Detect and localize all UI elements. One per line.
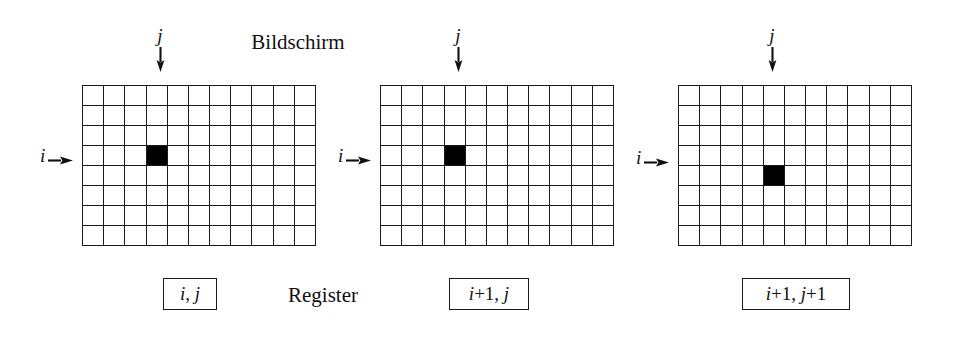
- grid-cell[interactable]: [764, 186, 785, 206]
- grid-cell[interactable]: [466, 226, 487, 246]
- grid-cell[interactable]: [445, 166, 466, 186]
- grid-cell[interactable]: [252, 186, 273, 206]
- grid-cell[interactable]: [764, 86, 785, 106]
- grid-cell[interactable]: [423, 166, 444, 186]
- grid-cell[interactable]: [445, 126, 466, 146]
- grid-cell[interactable]: [743, 226, 764, 246]
- grid-cell[interactable]: [764, 226, 785, 246]
- grid-cell[interactable]: [466, 146, 487, 166]
- grid-cell[interactable]: [572, 146, 593, 166]
- grid-cell[interactable]: [785, 86, 806, 106]
- grid-cell[interactable]: [402, 186, 423, 206]
- grid-cell[interactable]: [764, 126, 785, 146]
- grid-cell[interactable]: [700, 166, 721, 186]
- grid-cell[interactable]: [83, 106, 104, 126]
- grid-cell[interactable]: [848, 166, 869, 186]
- grid-cell[interactable]: [83, 146, 104, 166]
- grid-cell[interactable]: [827, 226, 848, 246]
- grid-cell[interactable]: [274, 186, 295, 206]
- grid-cell[interactable]: [721, 86, 742, 106]
- grid-cell[interactable]: [721, 226, 742, 246]
- grid-cell[interactable]: [848, 86, 869, 106]
- grid-cell[interactable]: [572, 86, 593, 106]
- grid-cell[interactable]: [721, 186, 742, 206]
- grid-cell[interactable]: [125, 206, 146, 226]
- grid-cell[interactable]: [381, 206, 402, 226]
- grid-cell[interactable]: [827, 126, 848, 146]
- grid-cell[interactable]: [147, 86, 168, 106]
- grid-cell[interactable]: [550, 166, 571, 186]
- grid-cell[interactable]: [572, 166, 593, 186]
- grid-cell[interactable]: [508, 166, 529, 186]
- grid-cell[interactable]: [189, 206, 210, 226]
- grid-cell[interactable]: [210, 146, 231, 166]
- grid-cell[interactable]: [806, 126, 827, 146]
- grid-cell[interactable]: [274, 226, 295, 246]
- grid-cell[interactable]: [423, 226, 444, 246]
- grid-cell[interactable]: [550, 106, 571, 126]
- grid-cell[interactable]: [402, 106, 423, 126]
- grid-cell[interactable]: [104, 166, 125, 186]
- grid-cell[interactable]: [785, 226, 806, 246]
- grid-cell[interactable]: [147, 126, 168, 146]
- grid-cell[interactable]: [679, 186, 700, 206]
- grid-cell[interactable]: [189, 86, 210, 106]
- grid-cell[interactable]: [806, 146, 827, 166]
- grid-cell[interactable]: [274, 86, 295, 106]
- grid-cell[interactable]: [231, 186, 252, 206]
- grid-cell[interactable]: [743, 86, 764, 106]
- grid-cell[interactable]: [147, 226, 168, 246]
- grid-cell[interactable]: [402, 226, 423, 246]
- grid-cell[interactable]: [445, 106, 466, 126]
- grid-cell[interactable]: [423, 86, 444, 106]
- grid-cell[interactable]: [189, 226, 210, 246]
- grid-cell[interactable]: [848, 146, 869, 166]
- grid-cell[interactable]: [827, 86, 848, 106]
- grid-cell[interactable]: [231, 86, 252, 106]
- grid-cell[interactable]: [402, 86, 423, 106]
- grid-cell[interactable]: [381, 126, 402, 146]
- grid-cell[interactable]: [104, 186, 125, 206]
- grid-cell[interactable]: [445, 226, 466, 246]
- grid-cell[interactable]: [104, 106, 125, 126]
- grid-cell[interactable]: [231, 226, 252, 246]
- grid-cell[interactable]: [83, 226, 104, 246]
- grid-cell[interactable]: [104, 126, 125, 146]
- grid-cell[interactable]: [83, 186, 104, 206]
- grid-cell[interactable]: [508, 106, 529, 126]
- grid-cell[interactable]: [168, 226, 189, 246]
- grid-cell[interactable]: [125, 146, 146, 166]
- grid-cell[interactable]: [189, 166, 210, 186]
- grid-cell[interactable]: [827, 166, 848, 186]
- grid-cell[interactable]: [529, 86, 550, 106]
- grid-cell[interactable]: [402, 206, 423, 226]
- grid-cell[interactable]: [402, 146, 423, 166]
- grid-cell[interactable]: [274, 126, 295, 146]
- grid-cell[interactable]: [252, 226, 273, 246]
- grid-cell[interactable]: [189, 186, 210, 206]
- grid-cell[interactable]: [743, 186, 764, 206]
- grid-cell[interactable]: [487, 106, 508, 126]
- grid-cell[interactable]: [189, 126, 210, 146]
- grid-cell[interactable]: [381, 166, 402, 186]
- grid-cell[interactable]: [381, 106, 402, 126]
- grid-cell[interactable]: [423, 206, 444, 226]
- grid-cell[interactable]: [550, 86, 571, 106]
- grid-cell[interactable]: [679, 206, 700, 226]
- grid-cell[interactable]: [721, 126, 742, 146]
- grid-cell[interactable]: [785, 206, 806, 226]
- grid-cell[interactable]: [487, 146, 508, 166]
- grid-cell[interactable]: [423, 126, 444, 146]
- grid-cell[interactable]: [870, 106, 891, 126]
- grid-cell[interactable]: [891, 226, 912, 246]
- grid-cell[interactable]: [423, 146, 444, 166]
- grid-cell[interactable]: [848, 226, 869, 246]
- grid-cell[interactable]: [806, 186, 827, 206]
- grid-cell-active[interactable]: [147, 146, 168, 166]
- grid-cell[interactable]: [508, 146, 529, 166]
- grid-cell[interactable]: [529, 166, 550, 186]
- grid-cell[interactable]: [147, 206, 168, 226]
- grid-cell[interactable]: [891, 206, 912, 226]
- grid-cell[interactable]: [679, 226, 700, 246]
- grid-cell[interactable]: [848, 186, 869, 206]
